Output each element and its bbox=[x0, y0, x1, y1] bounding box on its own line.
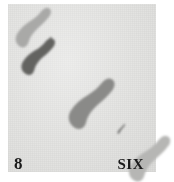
shoe-sole-bottom-right-light bbox=[125, 128, 173, 182]
shoe-sole-center-mid bbox=[64, 70, 117, 134]
shoe-sole-marks-layer bbox=[0, 0, 174, 182]
shoe-sole-group bbox=[12, 1, 172, 182]
caption-figure-word: SIX bbox=[117, 157, 144, 172]
caption-figure-number: 8 bbox=[14, 155, 23, 172]
sliver-lower bbox=[117, 123, 126, 135]
figure-root: 8 SIX bbox=[0, 0, 174, 182]
